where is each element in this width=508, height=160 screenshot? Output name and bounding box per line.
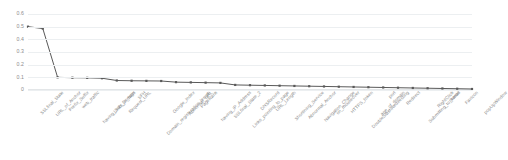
y-tick-label: 0.3 [0,49,24,54]
data-point-marker [131,80,133,82]
data-point-marker [367,86,369,88]
data-point-marker [308,85,310,87]
gridline [28,27,472,28]
gridline [28,52,472,53]
gridline [28,65,472,66]
data-point-marker [382,86,384,88]
y-tick-label: 0.4 [0,37,24,42]
x-tick-label: popUpWindow [483,90,508,115]
data-point-marker [397,87,399,89]
gridline [28,39,472,40]
data-point-marker [145,80,147,82]
y-axis: 00.10.20.30.40.50.6 [0,14,24,90]
data-point-marker [190,81,192,83]
gridline [28,14,472,15]
data-point-marker [234,84,236,86]
data-point-marker [205,82,207,84]
x-axis: SSLfinal_StateURL_of_AnchorPrefix_Suffix… [28,90,472,160]
y-tick-label: 0.5 [0,24,24,29]
data-point-marker [338,86,340,88]
data-line [28,27,472,89]
y-tick-label: 0.1 [0,75,24,80]
data-point-marker [353,86,355,88]
data-point-marker [279,85,281,87]
data-point-marker [264,84,266,86]
y-tick-label: 0.2 [0,62,24,67]
y-tick-label: 0 [0,87,24,92]
y-tick-label: 0.6 [0,11,24,16]
data-point-marker [323,85,325,87]
data-point-marker [116,79,118,81]
data-point-marker [412,87,414,89]
data-point-marker [42,27,44,29]
data-point-marker [175,81,177,83]
data-point-marker [427,87,429,89]
gridline [28,77,472,78]
x-tick-label: Favicon [464,90,479,105]
plot-area [28,14,472,90]
data-point-marker [219,82,221,84]
data-point-marker [293,85,295,87]
data-point-marker [249,84,251,86]
data-point-marker [160,80,162,82]
